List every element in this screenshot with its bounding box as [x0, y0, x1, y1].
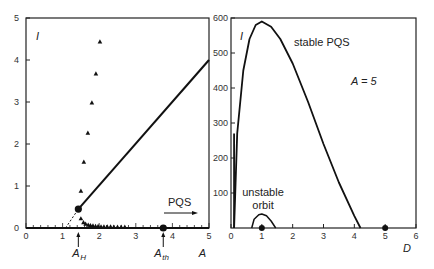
series-line	[78, 60, 209, 209]
triangle-marker	[98, 39, 103, 43]
left-panel: 012345012345IAAHAthPQS	[14, 13, 212, 262]
x-tick-label: 5	[383, 231, 388, 241]
triangle-marker	[82, 159, 87, 163]
arrow-head-icon	[76, 232, 80, 237]
left-y-axis-label: I	[36, 30, 39, 42]
y-tick-label: 3	[14, 97, 19, 107]
a-equals-label: A = 5	[350, 75, 377, 87]
x-tick-label: 2	[290, 231, 295, 241]
y-tick-label: 400	[213, 83, 228, 93]
triangle-marker	[79, 216, 84, 220]
right-y-axis-label: I	[240, 30, 243, 42]
triangle-marker	[86, 130, 91, 134]
x-tick-label: 4	[170, 231, 175, 241]
right-x-axis-label: D	[403, 242, 411, 254]
pqs-label: PQS	[168, 196, 191, 208]
y-tick-label: 0	[14, 223, 19, 233]
y-tick-label: 1	[14, 181, 19, 191]
x-tick-label: 1	[60, 231, 65, 241]
point-marker	[259, 225, 265, 231]
x-tick-label: 0	[23, 231, 28, 241]
right-panel: 1002003004005006000123456IDstable PQSA =…	[213, 13, 419, 254]
y-tick-label: 5	[14, 13, 19, 23]
point-marker	[382, 225, 388, 231]
left-x-axis-label: A	[198, 247, 206, 259]
x-tick-label: 1	[259, 231, 264, 241]
arrow-head-icon	[161, 232, 165, 237]
point-marker	[75, 206, 82, 213]
arrow-head-icon	[192, 211, 198, 215]
y-tick-label: 100	[213, 188, 228, 198]
y-tick-label: 300	[213, 118, 228, 128]
y-tick-label: 600	[213, 13, 228, 23]
x-tick-label: 2	[97, 231, 102, 241]
chart-figure: 012345012345IAAHAthPQS 10020030040050060…	[0, 0, 434, 269]
triangle-marker	[94, 71, 99, 75]
a-h-label: A	[71, 247, 79, 259]
x-tick-label: 4	[352, 231, 357, 241]
x-tick-label: 0	[228, 231, 233, 241]
point-marker	[160, 224, 167, 231]
triangle-marker	[79, 188, 84, 192]
y-tick-label: 500	[213, 48, 228, 58]
orbit-label: orbit	[252, 199, 273, 211]
a-th-subscript: th	[162, 253, 169, 262]
x-tick-label: 3	[133, 231, 138, 241]
triangle-marker	[90, 100, 95, 104]
x-tick-label: 5	[206, 231, 211, 241]
unstable-label: unstable	[242, 186, 284, 198]
a-h-subscript: H	[80, 253, 86, 262]
x-tick-label: 6	[413, 231, 418, 241]
y-tick-label: 2	[14, 139, 19, 149]
stable-pqs-label: stable PQS	[294, 36, 350, 48]
a-th-label: A	[153, 247, 161, 259]
y-tick-label: 4	[14, 55, 19, 65]
y-tick-label: 200	[213, 153, 228, 163]
x-tick-label: 3	[321, 231, 326, 241]
